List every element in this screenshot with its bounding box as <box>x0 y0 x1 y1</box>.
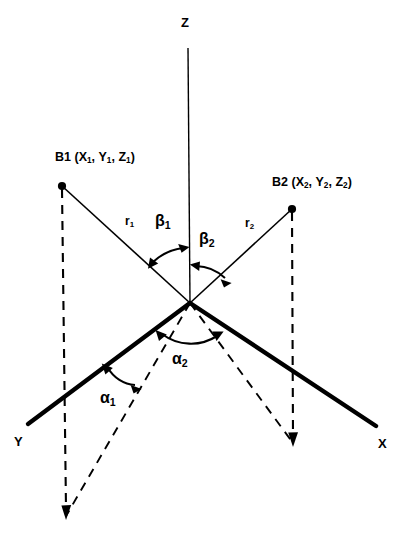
y-axis-label: Y <box>14 435 23 448</box>
b1-point-label: B1 (X1, Y1, Z1) <box>55 151 135 164</box>
b1-projection-arrowhead <box>61 505 71 520</box>
b1-coord-z: Z <box>118 150 126 164</box>
beta2-symbol: β <box>199 230 209 247</box>
b1-coord-y: Y <box>99 150 107 164</box>
b1-ground-projection-line <box>66 303 190 516</box>
beta1-angle-arc <box>153 248 183 262</box>
r1-symbol: r <box>125 214 130 228</box>
z-axis-line <box>188 48 190 303</box>
alpha2-label: α2 <box>172 351 188 367</box>
alpha2-subscript: 2 <box>182 357 188 369</box>
beta2-label: β2 <box>199 231 215 247</box>
b1-coord-x: X <box>79 150 87 164</box>
diagram-canvas <box>0 0 407 553</box>
b2-vertical-projection-line <box>292 212 293 435</box>
b1-sub-x: 1 <box>87 156 92 165</box>
r2-symbol: r <box>245 216 250 230</box>
alpha1-label: α1 <box>100 390 116 406</box>
z-axis-label: Z <box>181 16 189 29</box>
beta2-arc-arrowhead-end <box>221 279 232 287</box>
r2-range-line <box>190 209 292 303</box>
beta1-symbol: β <box>155 212 165 229</box>
b1-sub-z: 1 <box>126 156 131 165</box>
b2-sub-z: 2 <box>343 181 348 190</box>
beta2-arc-arrowhead-start <box>190 261 200 271</box>
b2-paren-close: ) <box>348 175 352 189</box>
b1-paren-open: ( <box>71 150 79 164</box>
b1-point-marker <box>58 182 66 190</box>
b2-sep-1: , <box>309 175 316 189</box>
r1-subscript: 1 <box>130 220 134 229</box>
b2-paren-open: ( <box>288 175 296 189</box>
beta1-arc-arrowhead-end <box>178 244 189 253</box>
b1-name: B1 <box>55 150 71 164</box>
b2-coord-x: X <box>296 175 304 189</box>
r2-subscript: 2 <box>250 222 254 231</box>
alpha1-subscript: 1 <box>110 396 116 408</box>
beta1-label: β1 <box>155 213 171 229</box>
b2-sub-x: 2 <box>304 181 309 190</box>
r1-label: r1 <box>125 215 134 227</box>
beta2-angle-arc <box>196 266 225 278</box>
figure-diagram: Z Y X B1 (X1, Y1, Z1) B2 (X2, Y2, Z2) r1… <box>0 0 407 553</box>
beta1-subscript: 1 <box>165 219 171 231</box>
r2-label: r2 <box>245 217 254 229</box>
b1-vertical-projection-line <box>62 189 66 508</box>
b2-ground-projection-line <box>190 303 293 443</box>
alpha2-symbol: α <box>172 350 182 367</box>
alpha1-symbol: α <box>100 389 110 406</box>
b2-coord-z: Z <box>335 175 343 189</box>
b1-sub-y: 1 <box>107 156 112 165</box>
alpha1-angle-arc <box>108 368 135 385</box>
r1-range-line <box>62 186 190 303</box>
b1-paren-close: ) <box>131 150 135 164</box>
b1-sep-1: , <box>92 150 99 164</box>
alpha2-arc-arrowhead-start <box>156 330 167 341</box>
b2-coord-y: Y <box>316 175 324 189</box>
x-axis-label: X <box>378 437 387 450</box>
b2-point-marker <box>288 205 296 213</box>
x-axis-line <box>190 303 376 426</box>
beta2-subscript: 2 <box>209 237 215 249</box>
b2-name: B2 <box>272 175 288 189</box>
b2-sub-y: 2 <box>324 181 329 190</box>
b2-projection-arrowhead <box>288 432 298 447</box>
alpha1-arc-arrowhead-end <box>131 385 142 394</box>
b2-point-label: B2 (X2, Y2, Z2) <box>272 176 352 189</box>
